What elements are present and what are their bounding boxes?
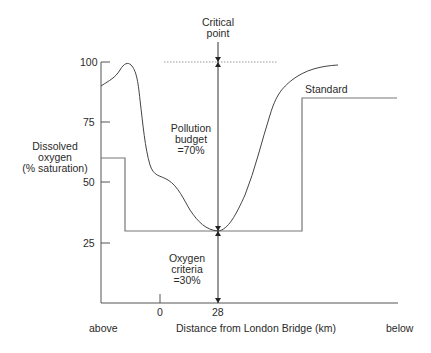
- pollution-budget-line3: =70%: [168, 145, 214, 156]
- oxygen-criteria-line3: =30%: [166, 275, 208, 286]
- y-axis-label-line3: (% saturation): [20, 163, 90, 174]
- standard-label: Standard: [305, 84, 348, 95]
- oxygen-criteria-label: Oxygen criteria =30%: [166, 253, 208, 286]
- critical-point-line2: point: [198, 28, 238, 39]
- y-tick-label-50: 50: [83, 176, 95, 188]
- arrowhead-down-critical: [215, 57, 221, 62]
- arrowhead-up-budget: [215, 62, 221, 67]
- y-axis-label: Dissolved oxygen (% saturation): [20, 141, 90, 174]
- above-label: above: [89, 322, 118, 334]
- x-axis-label: Distance from London Bridge (km): [176, 322, 336, 334]
- pollution-budget-label: Pollution budget =70%: [168, 123, 214, 156]
- x-tick-label-0: 0: [157, 306, 163, 318]
- y-tick-label-100: 100: [80, 56, 98, 68]
- diagram-canvas: [0, 0, 431, 353]
- arrowhead-up-criteria: [215, 231, 221, 236]
- standard-line: [101, 98, 397, 231]
- critical-point-label: Critical point: [198, 17, 238, 39]
- y-tick-label-75: 75: [83, 116, 95, 128]
- below-label: below: [386, 322, 413, 334]
- x-tick-label-28: 28: [212, 306, 224, 318]
- arrowhead-down-criteria: [215, 298, 221, 303]
- y-tick-label-25: 25: [83, 237, 95, 249]
